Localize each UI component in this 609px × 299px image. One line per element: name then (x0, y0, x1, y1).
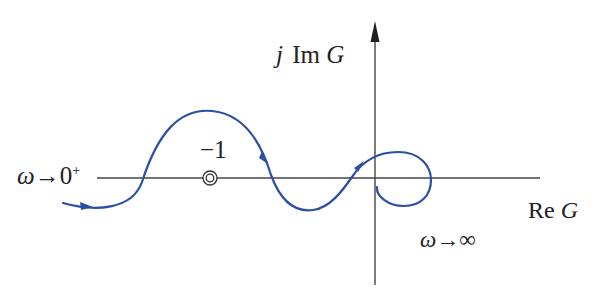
real-label-re: Re (528, 197, 555, 223)
real-label-var: G (561, 197, 578, 223)
start-omega: ω (17, 162, 35, 189)
imaginary-label-im: Im (292, 41, 320, 68)
critical-point-marker-icon (203, 171, 217, 185)
curve-direction-arrow-icon (354, 161, 364, 172)
end-value: ∞ (459, 227, 475, 252)
imaginary-axis-arrow-icon (371, 21, 380, 42)
end-omega: ω (420, 227, 436, 252)
start-value: 0 (60, 162, 73, 189)
nyquist-curve (63, 111, 431, 211)
real-axis-label: Re G (528, 198, 578, 222)
imaginary-unit: j (276, 41, 283, 68)
start-annotation: ω→0+ (17, 163, 80, 188)
imaginary-axis-label: j Im G (276, 42, 344, 67)
imaginary-label-var: G (326, 41, 344, 68)
end-annotation: ω→∞ (420, 228, 476, 251)
end-arrow: → (436, 227, 459, 252)
start-arrow: → (35, 162, 60, 189)
start-sup: + (72, 163, 80, 178)
critical-point-label: −1 (200, 137, 227, 162)
